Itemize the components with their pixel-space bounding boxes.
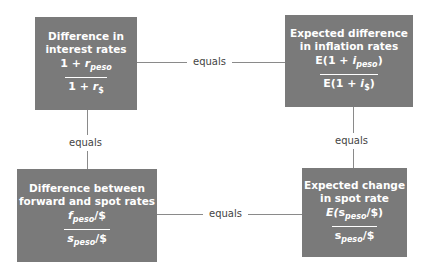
forward-spot-formula: fpeso/$ speso/$ <box>64 209 110 250</box>
title-line-1: Difference in <box>45 30 126 43</box>
formula-numerator: E(speso/$) <box>323 206 386 226</box>
title-line-1: Expected change <box>304 179 405 192</box>
connector-left-label: equals <box>65 135 106 151</box>
title-line-2: interest rates <box>45 43 126 56</box>
forward-spot-box: Difference between forward and spot rate… <box>17 169 157 262</box>
formula-numerator: E(1 + ipeso) <box>312 54 385 74</box>
spot-change-formula: E(speso/$) speso/$ <box>323 206 386 247</box>
connector-bottom-label: equals <box>203 208 248 220</box>
title-line-2: in spot rate <box>304 192 405 205</box>
forward-spot-title: Difference between forward and spot rate… <box>19 182 155 208</box>
interest-rate-title: Difference in interest rates <box>45 30 126 56</box>
title-line-1: Difference between <box>19 182 155 195</box>
title-line-2: forward and spot rates <box>19 195 155 208</box>
formula-denominator: speso/$ <box>64 229 110 250</box>
interest-rate-formula: 1 + rpeso 1 + r$ <box>57 57 114 98</box>
inflation-rate-title: Expected difference in inflation rates <box>290 27 408 53</box>
formula-denominator: E(1 + i$) <box>320 74 377 95</box>
inflation-rate-box: Expected difference in inflation rates E… <box>285 15 413 107</box>
formula-denominator: 1 + r$ <box>65 77 107 98</box>
formula-numerator: fpeso/$ <box>65 209 109 229</box>
inflation-rate-formula: E(1 + ipeso) E(1 + i$) <box>312 54 385 95</box>
interest-rate-box: Difference in interest rates 1 + rpeso 1… <box>35 17 137 110</box>
formula-numerator: 1 + rpeso <box>57 57 114 77</box>
spot-change-box: Expected change in spot rate E(speso/$) … <box>302 168 407 257</box>
spot-change-title: Expected change in spot rate <box>304 179 405 205</box>
formula-denominator: speso/$ <box>332 226 378 247</box>
title-line-1: Expected difference <box>290 27 408 40</box>
connector-right-label: equals <box>331 133 372 149</box>
connector-top-label: equals <box>187 56 232 68</box>
title-line-2: in inflation rates <box>290 40 408 53</box>
